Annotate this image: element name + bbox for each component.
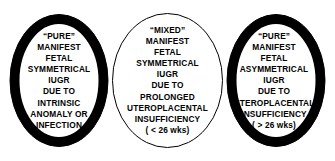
left-line-1: “PURE” <box>13 31 105 42</box>
left-line-9: INFECTION <box>13 120 105 131</box>
right-line-1: “PURE” <box>227 31 321 42</box>
left-line-4: SYMMETRICAL <box>13 64 105 75</box>
right-line-2: MANIFEST <box>227 42 321 53</box>
right-line-7: UTEROPLACENTAL <box>227 98 321 109</box>
middle-line-8: UTEROPLACENTAL <box>117 103 218 114</box>
right-circle-label: “PURE” MANIFEST FETAL ASYMMETRICAL IUGR … <box>227 31 321 131</box>
iugr-venn-diagram: “PURE” MANIFEST FETAL SYMMETRICAL IUGR D… <box>0 0 335 161</box>
middle-line-7: PROLONGED <box>117 92 218 103</box>
right-line-5: IUGR <box>227 75 321 86</box>
left-line-3: FETAL <box>13 53 105 64</box>
left-line-6: DUE TO <box>13 86 105 97</box>
middle-line-4: SYMMETRICAL <box>117 58 218 69</box>
left-circle-label: “PURE” MANIFEST FETAL SYMMETRICAL IUGR D… <box>13 31 105 131</box>
middle-line-5: IUGR <box>117 69 218 80</box>
left-line-5: IUGR <box>13 75 105 86</box>
middle-line-10: ( < 26 wks) <box>117 125 218 136</box>
middle-line-6: DUE TO <box>117 80 218 91</box>
middle-line-3: FETAL <box>117 47 218 58</box>
right-line-8: INSUFFICIENCY <box>227 109 321 120</box>
left-line-8: ANOMALY OR <box>13 109 105 120</box>
middle-circle-label: “MIXED” MANIFEST FETAL SYMMETRICAL IUGR … <box>117 25 218 136</box>
middle-line-9: INSUFFICIENCY <box>117 114 218 125</box>
left-line-2: MANIFEST <box>13 42 105 53</box>
middle-line-1: “MIXED” <box>117 25 218 36</box>
left-line-7: INTRINSIC <box>13 98 105 109</box>
right-line-6: DUE TO <box>227 86 321 97</box>
middle-line-2: MANIFEST <box>117 36 218 47</box>
right-line-3: FETAL <box>227 53 321 64</box>
right-line-9: ( > 26 wks) <box>227 120 321 131</box>
right-line-4: ASYMMETRICAL <box>227 64 321 75</box>
